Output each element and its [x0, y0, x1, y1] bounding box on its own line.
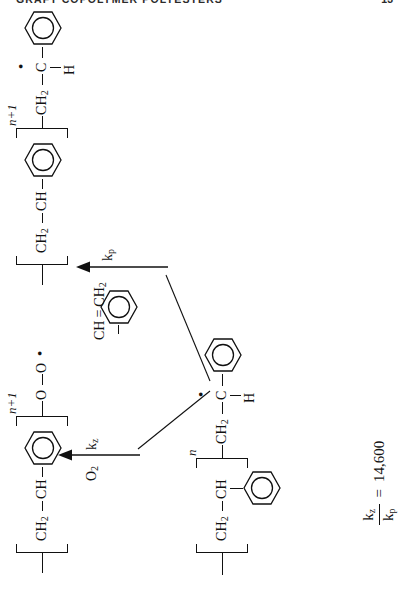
branch-connectors: [14, 17, 394, 577]
chainprod-bracket-left-bottom: [67, 256, 68, 265]
chainprod-bond-c-h: [50, 67, 61, 68]
chainprod-bond-ch-ring: [42, 179, 43, 189]
page-number: 13: [381, 0, 393, 5]
peroxy-bond-o-o: [42, 374, 43, 385]
chainprod-repeat-ch: CH: [34, 191, 50, 211]
chainprod-head-ch2: CH2: [34, 90, 50, 115]
chainprod-bracket-right-bottom: [67, 129, 68, 138]
chainprod-radical-carbon: C: [34, 62, 50, 72]
peroxy-repeat-ch: CH: [34, 479, 50, 499]
peroxy-o-inner: O: [34, 390, 50, 400]
ratio-numerator: kz: [361, 505, 379, 526]
oxidation-rate-constant: kz: [84, 439, 100, 450]
phenyl-ring-icon: [99, 288, 139, 326]
bond-styrene-ring: [118, 325, 119, 334]
oxidation-reagent-o2: O2: [84, 466, 100, 481]
chainprod-left-tail: [42, 265, 43, 285]
ratio-equals: =: [371, 489, 388, 497]
chainprod-bracket-left-vertical: [16, 264, 68, 265]
ratio-denominator: kp: [379, 505, 398, 526]
chainprod-h-label: H: [62, 65, 78, 75]
peroxy-radical-dot: •: [32, 351, 49, 356]
peroxy-repeat-ch2: CH2: [34, 516, 50, 541]
chainprod-bond-ch2-ch: [42, 213, 43, 223]
chainprod-bond-ch2-c: [42, 74, 43, 85]
phenyl-ring-icon: [23, 141, 63, 179]
peroxy-bond-bracket-o: [42, 401, 43, 417]
peroxy-o-outer: O: [34, 363, 50, 373]
ratio-fraction: kz kp: [361, 505, 397, 526]
chainprod-bracket-right-top: [16, 129, 17, 138]
peroxy-chain-left-tail: [42, 553, 43, 573]
peroxy-repeat-index: n+1: [4, 392, 20, 414]
chainprod-bond-bracket-ch2: [42, 116, 43, 129]
chainprod-radical-dot: •: [17, 64, 25, 69]
reaction-scheme: CH2 CH n CH2 C • H: [14, 17, 394, 577]
peroxy-bracket-right-top: [16, 417, 17, 426]
chainprod-bond-c-ring: [42, 47, 43, 58]
phenyl-ring-icon: [23, 9, 63, 47]
peroxy-bracket-left-vertical: [16, 552, 68, 553]
peroxy-bracket-left-top: [16, 544, 17, 553]
running-head: GRAFT COPOLYMER POLYESTERS 13: [0, 0, 407, 7]
rate-ratio-rotated-wrapper: kz kp = 14,600: [349, 395, 407, 525]
chainprod-repeat-index: n+1: [4, 104, 20, 126]
peroxy-bond-ch2-ch: [42, 501, 43, 511]
ratio-value: 14,600: [371, 441, 388, 482]
chainprod-repeat-ch2: CH2: [34, 228, 50, 253]
peroxy-bond-ch-ring: [42, 467, 43, 477]
running-head-title: GRAFT COPOLYMER POLYESTERS: [16, 0, 223, 5]
propagation-arrow-icon: [76, 257, 168, 277]
peroxy-bracket-left-bottom: [67, 544, 68, 553]
rate-constant-ratio-equation: kz kp = 14,600: [349, 395, 407, 525]
propagation-rate-constant: kp: [100, 249, 116, 261]
reaction-scheme-rotated-wrapper: CH2 CH n CH2 C • H: [14, 17, 394, 577]
phenyl-ring-icon: [23, 429, 63, 467]
chainprod-bracket-left-top: [16, 256, 17, 265]
peroxy-bracket-right-bottom: [67, 417, 68, 426]
